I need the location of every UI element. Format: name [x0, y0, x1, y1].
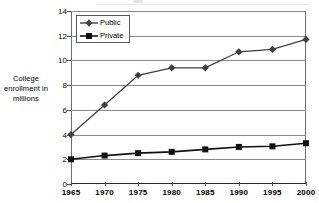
- data-point-public-1990: [235, 48, 242, 55]
- y-axis-title-line-3: millions: [0, 94, 52, 104]
- x-axis-tick-mark: [239, 182, 240, 186]
- data-point-private-1985: [202, 146, 208, 152]
- data-point-private-1965: [68, 156, 74, 162]
- y-axis-title: College enrollment in millions: [0, 74, 52, 104]
- y-axis-title-line-1: College: [0, 74, 52, 84]
- legend-label-private: Private: [100, 31, 123, 40]
- line-chart: College enrollment in millions 024681012…: [0, 0, 319, 203]
- data-point-public-2000: [302, 36, 309, 43]
- x-axis-tick-label: 1995: [263, 188, 282, 197]
- y-axis-tick-label: 10: [51, 56, 67, 65]
- x-axis-tick-mark: [105, 182, 106, 186]
- legend-marker-square-icon: [79, 30, 99, 42]
- series-line-public: [71, 39, 306, 134]
- legend-marker-diamond-icon: [79, 17, 99, 29]
- y-axis-tick-labels: 02468101214: [51, 11, 67, 184]
- legend-item-private[interactable]: Private: [79, 30, 129, 42]
- data-point-private-1990: [236, 144, 242, 150]
- x-axis-tick-mark: [172, 182, 173, 186]
- x-axis-tick-label: 1985: [196, 188, 215, 197]
- x-axis-tick-mark: [138, 182, 139, 186]
- x-axis-tick-label: 1975: [129, 188, 148, 197]
- data-point-public-1980: [168, 64, 175, 71]
- y-axis-tick-label: 14: [51, 7, 67, 16]
- x-axis-tick-mark: [205, 182, 206, 186]
- data-point-private-1970: [102, 153, 108, 159]
- legend-item-public[interactable]: Public: [79, 17, 129, 29]
- y-axis-title-line-2: enrollment in: [0, 84, 52, 94]
- y-axis-tick-label: 12: [51, 31, 67, 40]
- data-point-private-2000: [303, 140, 309, 146]
- x-axis-tick-label: 1980: [162, 188, 181, 197]
- data-point-public-1995: [269, 46, 276, 53]
- data-point-private-1980: [169, 149, 175, 155]
- y-axis-tick-label: 2: [51, 155, 67, 164]
- x-axis-tick-label: 1990: [230, 188, 249, 197]
- x-axis-tick-label: 1965: [62, 188, 81, 197]
- data-point-public-1985: [202, 64, 209, 71]
- x-axis-tick-labels: 19651970197519801985199019952000: [71, 186, 306, 202]
- x-axis-tick-mark: [306, 182, 307, 186]
- y-axis-tick-label: 6: [51, 105, 67, 114]
- data-point-private-1975: [135, 150, 141, 156]
- cropped-title-remnant: [133, 0, 143, 3]
- y-axis-tick-label: 8: [51, 81, 67, 90]
- legend[interactable]: Public Private: [76, 15, 130, 43]
- x-axis-tick-mark: [71, 182, 72, 186]
- cropped-title-rule: [96, 4, 309, 5]
- x-axis-tick-label: 1970: [95, 188, 114, 197]
- x-axis-tick-label: 2000: [297, 188, 316, 197]
- legend-label-public: Public: [100, 18, 120, 27]
- y-axis-tick-label: 4: [51, 130, 67, 139]
- data-point-private-1995: [269, 143, 275, 149]
- x-axis-tick-mark: [272, 182, 273, 186]
